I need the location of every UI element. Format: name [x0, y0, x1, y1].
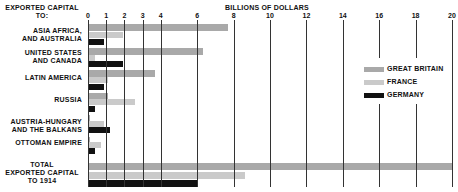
x-tick-label: 12 — [302, 12, 310, 19]
category-label-line: AND CANADA — [0, 57, 82, 65]
bar-germany — [88, 39, 104, 45]
gridline — [234, 20, 235, 187]
bar-france — [88, 77, 108, 83]
bar-great-britain — [88, 24, 228, 31]
gridline — [88, 20, 89, 187]
category-label-line: UNITED STATES — [0, 49, 82, 57]
gridline — [343, 20, 344, 187]
x-tick-label: 18 — [412, 12, 420, 19]
category-label-line: AUSTRIA-HUNGARY — [0, 118, 82, 126]
category-label-line: ASIA AFRICA, — [0, 27, 82, 35]
bar-great-britain — [88, 70, 155, 77]
x-tick-label: 8 — [232, 12, 236, 19]
legend-swatch — [364, 93, 384, 98]
y-title-line-2: TO: — [4, 12, 80, 20]
category-label-line: RUSSIA — [0, 96, 82, 104]
legend-item-france: FRANCE — [364, 78, 417, 86]
x-tick-label: 10 — [266, 12, 274, 19]
x-tick-label: 14 — [339, 12, 347, 19]
y-axis-title: EXPORTED CAPITAL TO: — [4, 4, 80, 20]
bar-germany — [88, 106, 95, 112]
category-label: AUSTRIA-HUNGARYAND THE BALKANS — [0, 118, 82, 134]
legend-label: GREAT BRITAIN — [387, 65, 443, 73]
x-axis-title: BILLIONS OF DOLLARS — [225, 4, 309, 12]
legend-swatch — [364, 80, 384, 85]
gridline — [270, 20, 271, 187]
category-label: ASIA AFRICA,AND AUSTRALIA — [0, 27, 82, 43]
category-label-line: AND THE BALKANS — [0, 126, 82, 134]
legend: GREAT BRITAINFRANCEGERMANY — [358, 58, 450, 104]
bar-great-britain — [88, 48, 203, 55]
category-label-line: TO 1914 — [0, 177, 84, 185]
bar-france — [88, 99, 135, 105]
x-tick-label: 6 — [195, 12, 199, 19]
gridline — [161, 20, 162, 187]
category-label: TOTALEXPORTED CAPITALTO 1914 — [0, 161, 84, 185]
legend-item-great-britain: GREAT BRITAIN — [364, 65, 443, 73]
y-title-line-1: EXPORTED CAPITAL — [4, 4, 80, 12]
category-label: OTTOMAN EMPIRE — [0, 139, 82, 147]
gridline — [452, 20, 453, 187]
legend-label: FRANCE — [387, 78, 417, 86]
gridline — [197, 20, 198, 187]
gridline — [106, 20, 107, 187]
x-tick-label: 1 — [104, 12, 108, 19]
category-label-line: EXPORTED CAPITAL — [0, 169, 84, 177]
category-label-line: LATIN AMERICA — [0, 74, 82, 82]
bar-germany — [88, 148, 95, 154]
bar-germany — [88, 84, 104, 90]
x-tick-label: 3 — [141, 12, 145, 19]
x-tick-label: 2 — [122, 12, 126, 19]
category-label: LATIN AMERICA — [0, 74, 82, 82]
category-label-line: OTTOMAN EMPIRE — [0, 139, 82, 147]
bar-france — [88, 172, 245, 179]
x-tick-label: 16 — [375, 12, 383, 19]
legend-swatch — [364, 67, 384, 72]
x-tick-label: 20 — [448, 12, 456, 19]
category-label-line: AND AUSTRALIA — [0, 35, 82, 43]
legend-item-germany: GERMANY — [364, 91, 424, 99]
gridline — [306, 20, 307, 187]
category-label: UNITED STATESAND CANADA — [0, 49, 82, 65]
category-label-line: TOTAL — [0, 161, 84, 169]
x-tick-label: 0 — [86, 12, 90, 19]
category-label: RUSSIA — [0, 96, 82, 104]
gridline — [143, 20, 144, 187]
legend-label: GERMANY — [387, 91, 424, 99]
gridline — [124, 20, 125, 187]
x-tick-label: 4 — [159, 12, 163, 19]
